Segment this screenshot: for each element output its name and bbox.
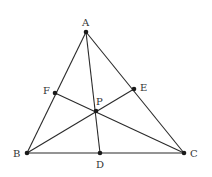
label-e: E (140, 82, 147, 93)
side-ca (86, 32, 184, 153)
triangle-diagram: A B C D E F P (0, 0, 212, 177)
point-b (25, 151, 30, 156)
point-c (182, 151, 187, 156)
point-a (84, 30, 89, 35)
cevian-ad (86, 32, 100, 153)
point-d (98, 151, 103, 156)
label-p: P (96, 96, 103, 107)
cevian-cf (55, 93, 184, 153)
point-f (53, 91, 58, 96)
label-b: B (13, 148, 20, 159)
point-p (94, 109, 99, 114)
label-c: C (190, 148, 198, 159)
point-e (132, 87, 137, 92)
label-a: A (81, 17, 90, 28)
label-d: D (96, 159, 104, 170)
label-f: F (43, 85, 50, 96)
